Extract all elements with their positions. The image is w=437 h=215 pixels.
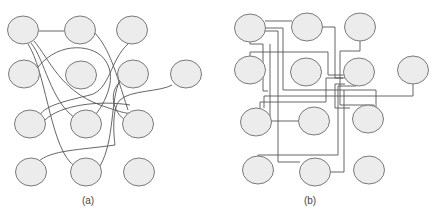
node-a-6: [171, 60, 202, 88]
node-a-10: [16, 158, 47, 186]
node-b-0: [235, 14, 266, 42]
panel-b-orthogonal-routing: [235, 13, 429, 186]
node-a-9: [123, 110, 154, 138]
node-a-1: [65, 16, 96, 44]
node-a-12: [124, 158, 155, 186]
node-a-3: [9, 60, 40, 88]
node-a-2: [117, 16, 148, 44]
node-b-3: [235, 56, 266, 84]
node-a-11: [71, 158, 102, 186]
panel-a-caption: (a): [82, 195, 94, 206]
node-b-7: [241, 108, 272, 136]
edge-b-5: [322, 27, 345, 78]
node-a-5: [118, 60, 149, 88]
node-b-6: [398, 56, 429, 84]
node-b-1: [292, 13, 323, 41]
panel-b-caption: (b): [304, 195, 316, 206]
node-a-0: [8, 16, 39, 44]
node-b-5: [344, 58, 375, 86]
edge-b-8: [264, 84, 413, 108]
node-b-12: [354, 156, 385, 184]
edge-b-11: [270, 44, 298, 121]
diagram-canvas: [0, 0, 437, 215]
node-b-4: [291, 58, 322, 86]
node-b-10: [243, 156, 274, 184]
edge-b-12: [330, 90, 344, 172]
node-a-8: [71, 110, 102, 138]
node-a-4: [66, 61, 97, 89]
node-b-2: [345, 13, 376, 41]
node-b-11: [300, 158, 331, 186]
node-b-8: [299, 107, 330, 135]
node-a-7: [15, 110, 46, 138]
node-b-9: [353, 105, 384, 133]
edge-a-9: [100, 80, 120, 166]
panel-a-curved-routing: [8, 16, 202, 186]
